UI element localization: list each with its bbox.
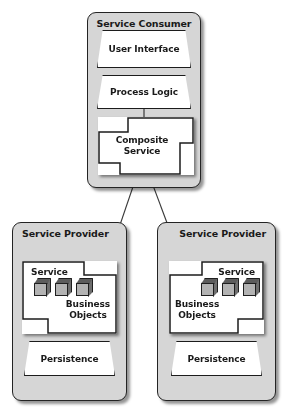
service-component-left[interactable]: Service Business Objects <box>22 261 117 334</box>
persistence-layer-left[interactable]: Persistence <box>24 341 115 376</box>
business-object-cube <box>76 278 93 297</box>
cube-front-face <box>34 283 47 296</box>
cube-front-face <box>243 283 256 296</box>
persistence-label-right: Persistence <box>187 354 245 364</box>
composite-service-component[interactable]: Composite Service <box>98 117 194 175</box>
service-provider-left-title: Service Provider <box>13 228 126 239</box>
business-objects-label-left: Business Objects <box>66 299 110 320</box>
business-object-cube <box>55 278 72 297</box>
business-object-cube <box>34 278 51 297</box>
service-provider-right-container: Service Provider Service <box>157 222 276 401</box>
persistence-label-left: Persistence <box>40 354 98 364</box>
process-logic-layer[interactable]: Process Logic <box>97 75 191 109</box>
persistence-layer-right[interactable]: Persistence <box>171 341 262 376</box>
service-label-left: Service <box>31 267 68 277</box>
service-provider-left-container: Service Provider Service <box>12 222 127 401</box>
business-object-cube <box>201 278 218 297</box>
business-objects-cubes-left <box>34 278 93 297</box>
composite-service-label: Composite Service <box>104 135 180 156</box>
cube-front-face <box>76 283 89 296</box>
architecture-diagram: Service Consumer User Interface Process … <box>0 0 287 411</box>
process-logic-label: Process Logic <box>110 87 178 97</box>
business-objects-cubes-right <box>201 278 260 297</box>
service-provider-right-title: Service Provider <box>158 228 275 239</box>
cube-front-face <box>55 283 68 296</box>
user-interface-label: User Interface <box>109 44 180 54</box>
cube-front-face <box>222 283 235 296</box>
service-consumer-container: Service Consumer User Interface Process … <box>87 12 201 188</box>
cube-front-face <box>201 283 214 296</box>
service-label-right: Service <box>218 267 255 277</box>
business-objects-label-right: Business Objects <box>175 299 219 320</box>
user-interface-layer[interactable]: User Interface <box>97 30 191 68</box>
service-component-right[interactable]: Service Business Objects <box>169 261 264 334</box>
business-object-cube <box>222 278 239 297</box>
business-object-cube <box>243 278 260 297</box>
